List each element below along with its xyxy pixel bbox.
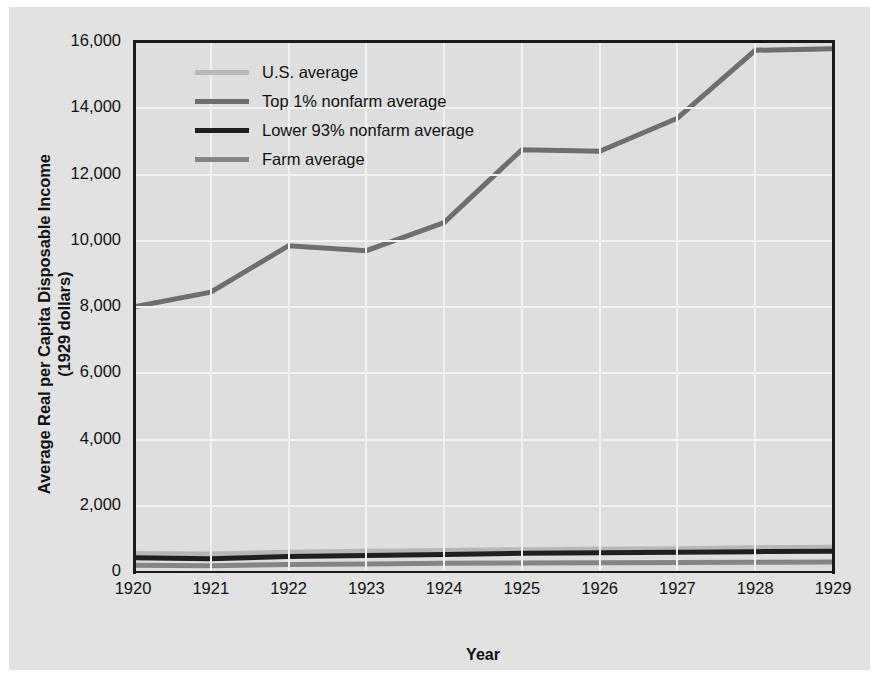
legend-color-swatch [195,99,249,104]
y-tick-label: 12,000 [17,164,121,183]
y-tick-label: 6,000 [17,362,121,381]
gridline-vertical [599,42,601,572]
legend-label: Top 1% nonfarm average [262,92,446,111]
legend-item[interactable]: Lower 93% nonfarm average [195,116,525,145]
y-tick-label: 8,000 [17,296,121,315]
gridline-horizontal [133,240,833,242]
gridline-vertical [754,42,756,572]
x-tick-label: 1924 [399,579,489,598]
x-tick-label: 1921 [166,579,256,598]
legend-color-swatch [195,157,249,162]
gridline-vertical [676,42,678,572]
axis-frame-bottom [133,571,835,573]
axis-frame-top [133,40,835,43]
legend-label: Farm average [262,150,365,169]
y-tick-label: 4,000 [17,429,121,448]
gridline-horizontal [133,372,833,374]
x-tick-label: 1926 [555,579,645,598]
y-tick-label: 2,000 [17,495,121,514]
axis-frame-right [832,40,835,574]
legend-color-swatch [195,128,249,133]
y-tick-label: 14,000 [17,97,121,116]
x-tick-label: 1922 [244,579,334,598]
plot-area: U.S. averageTop 1% nonfarm averageLower … [133,42,833,572]
legend-label: Lower 93% nonfarm average [262,121,474,140]
x-axis-title: Year [133,646,833,664]
chart-figure: Average Real per Capita Disposable Incom… [9,7,870,670]
chart-legend: U.S. averageTop 1% nonfarm averageLower … [195,58,525,174]
gridline-horizontal [133,439,833,441]
x-tick-label: 1928 [710,579,800,598]
legend-item[interactable]: Top 1% nonfarm average [195,87,525,116]
axis-frame-left [133,40,136,574]
x-tick-label: 1923 [321,579,411,598]
x-tick-label: 1925 [477,579,567,598]
y-tick-label: 10,000 [17,230,121,249]
x-tick-label: 1929 [788,579,870,598]
x-tick-label: 1920 [88,579,178,598]
gridline-horizontal [133,505,833,507]
legend-color-swatch [195,70,249,75]
series-line [133,562,833,566]
legend-item[interactable]: Farm average [195,145,525,174]
x-tick-label: 1927 [632,579,722,598]
legend-item[interactable]: U.S. average [195,58,525,87]
y-tick-label: 0 [17,561,121,580]
gridline-horizontal [133,306,833,308]
y-tick-label: 16,000 [17,31,121,50]
legend-label: U.S. average [262,63,358,82]
